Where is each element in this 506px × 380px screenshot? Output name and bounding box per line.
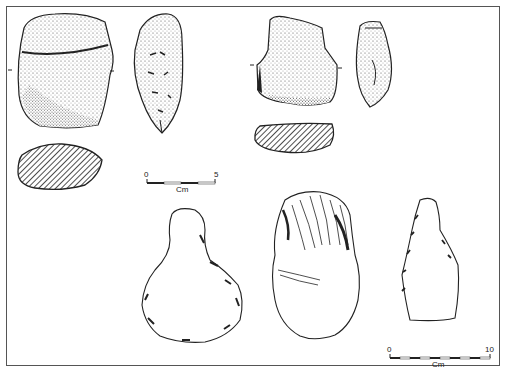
illustration-canvas [0, 0, 506, 380]
flaked-core-tool [273, 192, 360, 339]
retouched-flake-outline [142, 209, 242, 343]
hatched-section-1 [18, 144, 102, 190]
scale-large-unit: Cm [432, 360, 444, 369]
retouched-blade-fragment [402, 198, 459, 320]
scale-bar-large [390, 354, 490, 359]
stippled-core-profile-2 [356, 22, 391, 108]
stippled-core-face-2 [250, 16, 342, 105]
scale-small-end: 5 [214, 170, 218, 179]
scale-small-start: 0 [144, 170, 148, 179]
stippled-core-face-1 [8, 14, 114, 128]
scale-large-end: 10 [485, 345, 494, 354]
hatched-section-2 [255, 123, 334, 152]
scale-large-start: 0 [387, 345, 391, 354]
scale-small-unit: Cm [176, 185, 188, 194]
scale-bar-small [147, 179, 215, 184]
stippled-core-profile-1 [134, 14, 182, 133]
